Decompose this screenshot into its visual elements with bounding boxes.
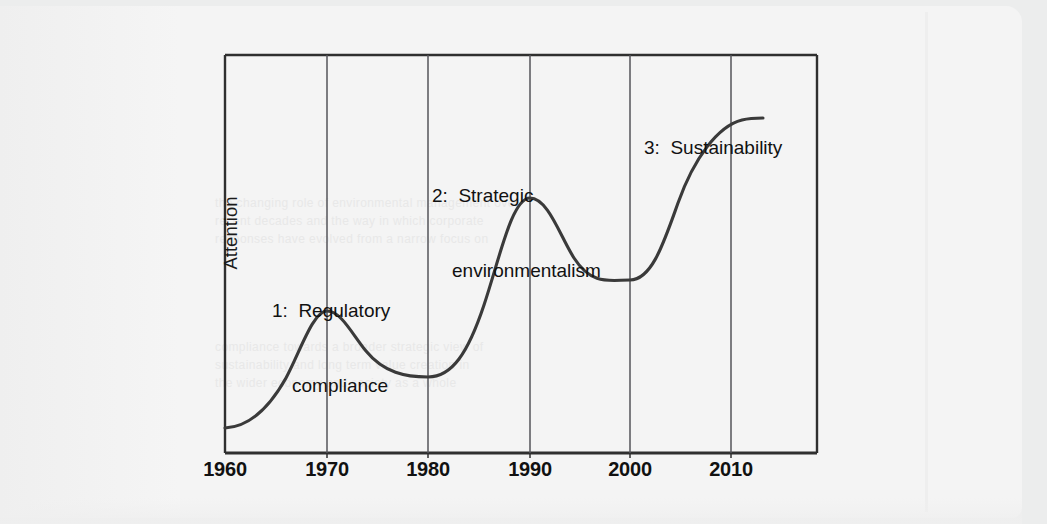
x-tick-label-2010: 2010	[686, 458, 776, 481]
annotation-2-line1: 2: Strategic	[432, 183, 601, 208]
annotation-sustainability: 3: Sustainability	[644, 85, 782, 210]
x-tick-label-1960: 1960	[180, 458, 270, 481]
x-tick-label-2000: 2000	[585, 458, 675, 481]
annotation-2-line2: environmentalism	[432, 258, 601, 283]
y-axis-title: Attention	[220, 173, 242, 293]
annotation-3-line1: 3: Sustainability	[644, 135, 782, 160]
annotation-1-line2: compliance	[272, 373, 390, 398]
x-tick-label-1990: 1990	[485, 458, 575, 481]
x-tick-label-1980: 1980	[383, 458, 473, 481]
x-tick-label-1970: 1970	[282, 458, 372, 481]
annotation-strategic-environmentalism: 2: Strategic environmentalism	[432, 133, 601, 333]
attention-line-chart: Attention 1960 1970 1980 1990 2000 2010 …	[0, 0, 1047, 524]
annotation-1-line1: 1: Regulatory	[272, 298, 390, 323]
annotation-regulatory-compliance: 1: Regulatory compliance	[272, 248, 390, 448]
